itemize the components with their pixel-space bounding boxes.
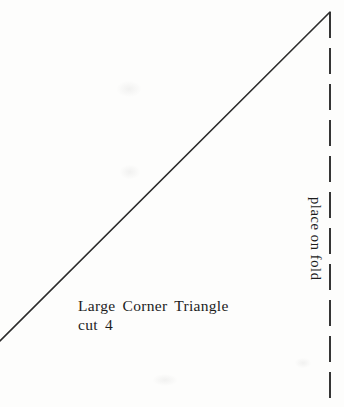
- pattern-drawing: [0, 0, 344, 407]
- pattern-page: Large Corner Triangle cut 4 place on fol…: [0, 0, 344, 407]
- place-on-fold-label: place on fold: [307, 197, 324, 281]
- piece-name: Large Corner Triangle: [78, 296, 229, 315]
- piece-label: Large Corner Triangle cut 4: [78, 296, 229, 334]
- cut-instruction: cut 4: [78, 315, 229, 334]
- paper-background: [0, 0, 344, 407]
